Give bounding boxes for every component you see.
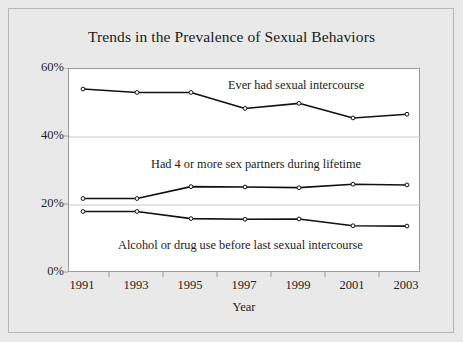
data-point [351,116,355,120]
series-annotation-alcohol-or-drug-use: Alcohol or drug use before last sexual i… [118,238,363,253]
data-point [81,197,85,201]
data-point [81,210,85,214]
y-tick-label: 60% [14,60,64,75]
data-point [351,182,355,186]
data-point [243,217,247,221]
x-axis-label: Year [68,300,420,315]
x-tick-label: 2001 [325,278,379,293]
series-annotation-ever-had-sexual-intercourse: Ever had sexual intercourse [228,78,364,93]
data-point [189,217,193,221]
data-point [243,185,247,189]
chart-title: Trends in the Prevalence of Sexual Behav… [0,28,463,46]
y-tick-label: 0% [14,264,64,279]
y-axis-tick-marks [61,68,69,273]
data-point [135,91,139,95]
data-point [297,186,301,190]
data-point [297,217,301,221]
chart-figure: Trends in the Prevalence of Sexual Behav… [0,0,463,342]
data-point [189,185,193,189]
series-line-0 [83,89,407,118]
x-tick-label: 1995 [163,278,217,293]
x-tick-label: 2003 [379,278,433,293]
data-point [297,101,301,105]
data-point [135,197,139,201]
data-point [189,91,193,95]
x-tick-label: 1999 [271,278,325,293]
data-point [243,107,247,111]
data-point [405,112,409,116]
data-point [135,210,139,214]
y-tick-label: 20% [14,196,64,211]
x-tick-label: 1991 [55,278,109,293]
data-point [405,224,409,228]
data-point [351,224,355,228]
series-annotation-four-or-more-partners: Had 4 or more sex partners during lifeti… [151,157,361,172]
x-tick-label: 1993 [109,278,163,293]
data-point [405,183,409,187]
y-tick-label: 40% [14,128,64,143]
data-point [81,87,85,91]
x-tick-label: 1997 [217,278,271,293]
